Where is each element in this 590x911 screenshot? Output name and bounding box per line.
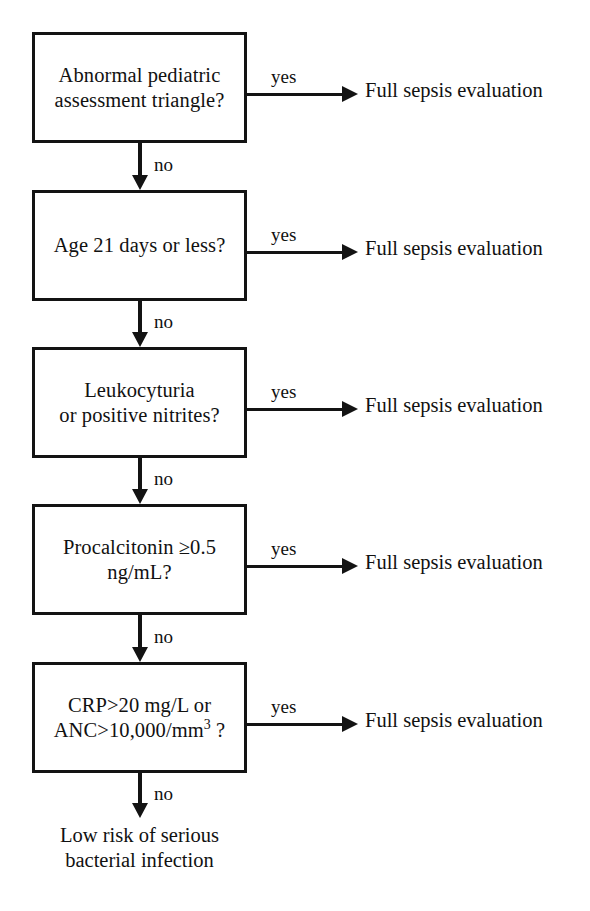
decision-box-procalcitonin[interactable]: Procalcitonin ≥0.5 ng/mL? (32, 504, 247, 615)
decision-box-crp-anc[interactable]: CRP>20 mg/L orANC>10,000/mm3 ? (32, 662, 247, 773)
arrowhead-right-icon (342, 716, 358, 732)
connector-line (138, 773, 142, 803)
arrowhead-down-icon (132, 332, 148, 347)
outcome-full-sepsis-evaluation: Full sepsis evaluation (365, 238, 543, 259)
arrowhead-right-icon (342, 244, 358, 260)
arrow-line (247, 723, 342, 726)
edge-label-no: no (154, 784, 173, 803)
edge-label-yes: yes (271, 225, 296, 244)
outcome-full-sepsis-evaluation: Full sepsis evaluation (365, 710, 543, 731)
connector-line (138, 301, 142, 332)
connector-line (138, 458, 142, 489)
outcome-full-sepsis-evaluation: Full sepsis evaluation (365, 552, 543, 573)
edge-label-yes: yes (271, 697, 296, 716)
edge-label-yes: yes (271, 539, 296, 558)
anc-exponent: 3 (204, 717, 211, 732)
decision-box-age-21-days[interactable]: Age 21 days or less? (32, 190, 247, 301)
arrow-line (247, 408, 342, 411)
terminal-low-risk-outcome: Low risk of serious bacterial infection (32, 823, 247, 873)
decision-box-label: CRP>20 mg/L orANC>10,000/mm3 ? (48, 693, 232, 743)
decision-box-label: Age 21 days or less? (48, 233, 232, 258)
crp-line-1: CRP>20 mg/L or (68, 694, 211, 716)
arrowhead-down-icon (132, 803, 148, 818)
arrowhead-down-icon (132, 647, 148, 662)
edge-label-yes: yes (271, 382, 296, 401)
decision-box-pediatric-assessment-triangle[interactable]: Abnormal pediatric assessment triangle? (32, 32, 247, 143)
arrowhead-down-icon (132, 175, 148, 190)
edge-label-no: no (154, 155, 173, 174)
outcome-full-sepsis-evaluation: Full sepsis evaluation (365, 80, 543, 101)
arrow-line (247, 93, 342, 96)
edge-label-no: no (154, 312, 173, 331)
anc-line-suffix: ? (211, 719, 225, 741)
connector-line (138, 143, 142, 175)
arrowhead-right-icon (342, 401, 358, 417)
arrowhead-right-icon (342, 558, 358, 574)
arrow-line (247, 565, 342, 568)
decision-box-label: Procalcitonin ≥0.5 ng/mL? (57, 535, 222, 585)
arrowhead-down-icon (132, 489, 148, 504)
decision-box-label: Leukocyturia or positive nitrites? (53, 378, 225, 428)
decision-box-label: Abnormal pediatric assessment triangle? (49, 63, 231, 113)
anc-line-prefix: ANC>10,000/mm (54, 719, 204, 741)
edge-label-no: no (154, 469, 173, 488)
edge-label-yes: yes (271, 67, 296, 86)
decision-box-leukocyturia-nitrites[interactable]: Leukocyturia or positive nitrites? (32, 347, 247, 458)
arrowhead-right-icon (342, 86, 358, 102)
outcome-full-sepsis-evaluation: Full sepsis evaluation (365, 395, 543, 416)
flowchart-canvas: Abnormal pediatric assessment triangle? … (0, 0, 590, 911)
connector-line (138, 615, 142, 647)
arrow-line (247, 251, 342, 254)
edge-label-no: no (154, 627, 173, 646)
